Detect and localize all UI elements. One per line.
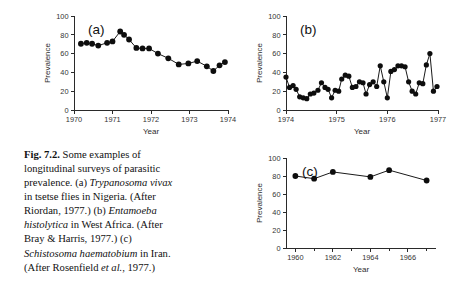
chart-a-canvas: 02040608010019701971197219731974(a)YearP… xyxy=(36,8,236,138)
y-tick-label: 40 xyxy=(60,68,68,77)
data-point xyxy=(222,59,228,65)
data-point xyxy=(424,62,429,67)
data-point xyxy=(165,55,171,61)
data-point xyxy=(217,62,223,68)
data-point xyxy=(374,84,379,89)
y-axis-title: Prevalence xyxy=(255,182,264,223)
data-point xyxy=(294,87,299,92)
data-point xyxy=(420,81,425,86)
x-tick-label: 1962 xyxy=(325,253,341,262)
data-point xyxy=(319,80,324,85)
panel-label-b: (b) xyxy=(300,22,317,37)
y-tick-label: 40 xyxy=(272,68,280,77)
y-tick-label: 80 xyxy=(272,31,280,40)
y-tick-label: 0 xyxy=(276,106,280,115)
data-point xyxy=(424,178,430,184)
x-tick-label: 1966 xyxy=(400,253,416,262)
x-tick-label: 1971 xyxy=(104,115,120,124)
data-point xyxy=(140,46,146,52)
x-tick-label: 1960 xyxy=(287,253,303,262)
data-point xyxy=(185,61,191,67)
y-tick-label: 80 xyxy=(60,31,68,40)
data-point xyxy=(146,46,152,52)
chart-c-canvas: 0204060801001960196219641966(c)YearPreva… xyxy=(248,150,446,278)
x-axis-title: Year xyxy=(143,127,160,136)
data-point xyxy=(402,64,407,69)
x-tick-label: 1973 xyxy=(181,115,197,124)
x-tick-label: 1964 xyxy=(362,253,378,262)
y-tick-label: 20 xyxy=(272,87,280,96)
data-point xyxy=(329,95,334,100)
data-point xyxy=(431,89,436,94)
chart-panel-b: 0204060801001974197519761977(b)YearPreva… xyxy=(248,8,446,138)
x-tick-label: 1977 xyxy=(430,115,446,124)
data-point xyxy=(378,63,383,68)
data-point xyxy=(427,51,432,56)
data-series-line xyxy=(81,32,225,71)
data-point xyxy=(336,89,341,94)
data-point xyxy=(176,62,182,68)
chart-panel-a: 02040608010019701971197219731974(a)YearP… xyxy=(36,8,236,138)
data-point xyxy=(84,40,90,46)
data-point xyxy=(104,40,110,46)
data-point xyxy=(346,74,351,79)
x-tick-label: 1974 xyxy=(220,115,236,124)
chart-panel-c: 0204060801001960196219641966(c)YearPreva… xyxy=(248,150,446,278)
x-axis-title: Year xyxy=(354,127,371,136)
data-point xyxy=(360,80,365,85)
x-tick-label: 1975 xyxy=(328,115,344,124)
y-tick-label: 20 xyxy=(60,87,68,96)
data-point xyxy=(434,84,439,89)
x-tick-label: 1970 xyxy=(66,115,82,124)
panel-label-c: (c) xyxy=(302,164,318,179)
caption-text-part-5: , 1977.) xyxy=(122,262,155,273)
data-point xyxy=(126,37,132,43)
y-axis-title: Prevalence xyxy=(255,42,264,83)
caption-species-a: Trypanosoma vivax xyxy=(90,177,173,188)
x-tick-label: 1974 xyxy=(278,115,294,124)
data-point xyxy=(413,91,418,96)
data-point xyxy=(89,41,95,47)
y-tick-label: 60 xyxy=(60,49,68,58)
caption-figure-number: Fig. 7.2. xyxy=(24,149,60,160)
data-point xyxy=(371,79,376,84)
data-point xyxy=(381,79,386,84)
data-point xyxy=(110,38,116,44)
caption-species-c: Schistosoma haematobium xyxy=(24,248,137,259)
data-point xyxy=(78,41,84,47)
figure-caption: Fig. 7.2. Some examples of longitudinal … xyxy=(24,148,174,275)
data-point xyxy=(330,169,336,175)
data-point xyxy=(406,79,411,84)
data-point xyxy=(304,96,309,101)
y-tick-label: 60 xyxy=(272,190,280,199)
data-point xyxy=(95,43,101,49)
y-tick-label: 100 xyxy=(56,12,68,21)
x-axis-title: Year xyxy=(353,265,370,274)
data-point xyxy=(315,88,320,93)
caption-et-al: et al. xyxy=(101,262,122,273)
y-tick-label: 0 xyxy=(276,244,280,253)
data-point xyxy=(210,68,216,74)
y-tick-label: 20 xyxy=(272,226,280,235)
figure-7-2: 02040608010019701971197219731974(a)YearP… xyxy=(0,0,452,283)
y-tick-label: 100 xyxy=(268,154,280,163)
data-point xyxy=(367,174,373,180)
data-point xyxy=(133,45,139,51)
data-point xyxy=(386,167,392,173)
x-tick-label: 1972 xyxy=(143,115,159,124)
data-point xyxy=(363,91,368,96)
y-tick-label: 80 xyxy=(272,172,280,181)
data-point xyxy=(292,173,298,179)
chart-b-canvas: 0204060801001974197519761977(b)YearPreva… xyxy=(248,8,446,138)
data-point xyxy=(194,58,200,64)
x-tick-label: 1976 xyxy=(379,115,395,124)
data-point xyxy=(155,51,161,57)
y-tick-label: 40 xyxy=(272,208,280,217)
y-tick-label: 100 xyxy=(268,12,280,21)
y-tick-label: 0 xyxy=(64,106,68,115)
y-axis-title: Prevalence xyxy=(43,42,52,83)
data-point xyxy=(121,32,127,38)
data-point xyxy=(325,87,330,92)
data-point xyxy=(283,75,288,80)
data-point xyxy=(385,95,390,100)
